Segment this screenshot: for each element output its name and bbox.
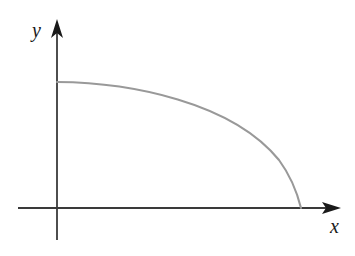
figure-container: y x <box>0 0 355 256</box>
math-figure-svg: y x <box>0 0 355 256</box>
x-axis-label: x <box>329 215 339 237</box>
quarter-ellipse-curve <box>57 82 301 208</box>
y-axis-label: y <box>30 19 41 42</box>
